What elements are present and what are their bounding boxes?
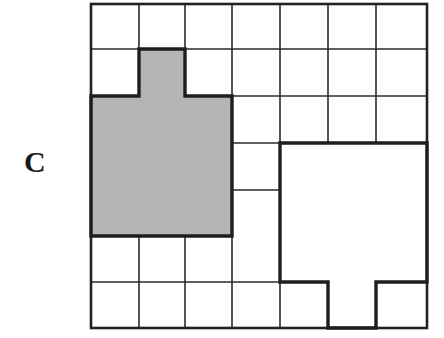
outlined-shape	[280, 143, 427, 328]
shaded-shape	[91, 49, 232, 236]
grid-diagram	[0, 0, 444, 338]
